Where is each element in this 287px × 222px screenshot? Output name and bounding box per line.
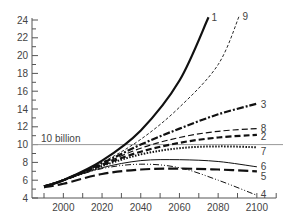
- series-line-1: [44, 17, 209, 186]
- x-tick-label: 2000: [52, 202, 75, 213]
- x-axis: 200020202040206020802100: [32, 193, 276, 213]
- x-tick-label: 2080: [207, 202, 230, 213]
- y-axis: 4681012141618202224: [17, 15, 38, 204]
- x-tick-label: 2060: [168, 202, 191, 213]
- y-tick-label: 6: [22, 175, 28, 186]
- series-line-5: [44, 169, 257, 188]
- population-projection-chart: 4681012141618202224 20002020204020602080…: [0, 0, 287, 222]
- series-label-1: 1: [211, 12, 217, 23]
- series-label-4: 4: [261, 189, 267, 200]
- y-tick-label: 14: [17, 104, 29, 115]
- ten-billion-label: 10 billion: [41, 133, 80, 144]
- series-label-6: 6: [261, 161, 267, 172]
- series-label-2: 2: [261, 131, 267, 142]
- x-tick-label: 2020: [91, 202, 114, 213]
- y-tick-label: 4: [22, 193, 28, 204]
- series-lines: 193827654: [44, 11, 267, 201]
- y-tick-label: 22: [17, 32, 29, 43]
- y-tick-label: 18: [17, 68, 29, 79]
- series-label-9: 9: [242, 11, 248, 22]
- y-tick-label: 20: [17, 50, 29, 61]
- y-tick-label: 8: [22, 157, 28, 168]
- series-label-5: 5: [261, 171, 267, 182]
- y-tick-label: 10: [17, 139, 29, 150]
- series-label-3: 3: [261, 99, 267, 110]
- x-tick-label: 2040: [130, 202, 153, 213]
- y-tick-label: 12: [17, 121, 29, 132]
- x-tick-label: 2100: [246, 202, 269, 213]
- y-tick-label: 24: [17, 15, 29, 26]
- series-label-7: 7: [261, 146, 267, 157]
- y-tick-label: 16: [17, 86, 29, 97]
